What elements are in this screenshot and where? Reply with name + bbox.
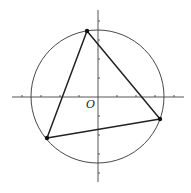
vertex-point-bottom-left	[45, 136, 49, 140]
vertex-points	[45, 29, 162, 140]
origin-label: O	[86, 98, 95, 111]
axes	[12, 10, 184, 182]
inscribed-triangle	[47, 31, 160, 138]
circumcircle	[31, 30, 164, 163]
vertex-point-right	[158, 117, 162, 121]
coordinate-diagram: O	[0, 0, 191, 193]
vertex-point-top	[85, 29, 89, 33]
